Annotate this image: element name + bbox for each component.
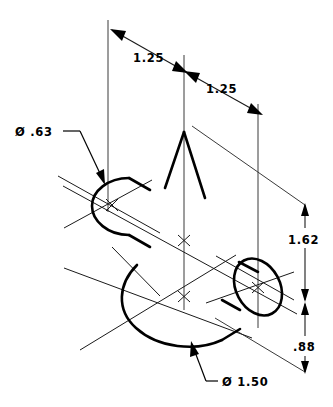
small-cylinder-top-edge-left: [129, 178, 150, 190]
center-line-large-end-axis-b: [80, 255, 236, 350]
small-cylinder-bottom-edge-right: [222, 300, 240, 310]
large-cylinder-bottom-arc: [122, 265, 222, 347]
leader-diameter-0-63[interactable]: Ø .63: [15, 125, 105, 185]
isometric-drawing-canvas: 1.25 1.25 1.62 .88: [0, 0, 333, 407]
center-line-cylinder-axis: [63, 186, 297, 314]
arrowhead-1-50: [190, 341, 199, 357]
part-geometry: [92, 132, 292, 347]
arrowhead-1-62-top: [301, 203, 309, 216]
leader-diameter-1-50[interactable]: Ø 1.50: [190, 341, 268, 389]
dimension-0-88[interactable]: .88: [293, 302, 315, 374]
arrowhead-0-63: [96, 169, 105, 185]
dimension-label-1-62: 1.62: [288, 233, 319, 247]
arrowhead-1-25-left-end: [172, 61, 188, 73]
center-lines: [58, 176, 297, 350]
dimension-label-1-25-right: 1.25: [206, 82, 237, 96]
dimension-label-1-25-left: 1.25: [133, 51, 164, 65]
intersection-vee-left-leg: [165, 132, 184, 188]
small-cylinder-bottom-edge-left: [129, 235, 150, 247]
arrowhead-1-25-left-start: [110, 29, 126, 41]
technical-drawing-viewport: 1.25 1.25 1.62 .88: [0, 0, 333, 407]
arrowhead-1-62-bottom: [301, 289, 309, 302]
diameter-label-1-50: Ø 1.50: [222, 375, 268, 389]
dimension-1-62[interactable]: 1.62: [288, 203, 319, 302]
dimension-label-0-88: .88: [293, 340, 315, 354]
arrowhead-1-25-right-end: [247, 103, 263, 115]
arrowhead-0-88-top: [301, 302, 309, 315]
dimension-1-25-right[interactable]: 1.25: [184, 71, 263, 115]
extension-lines: [108, 20, 305, 372]
diameter-label-0-63: Ø .63: [15, 125, 53, 139]
intersection-vee-right-leg: [184, 132, 205, 198]
extension-line-iso-lower: [215, 318, 305, 372]
dimension-1-25-left[interactable]: 1.25: [110, 29, 188, 73]
arrowhead-1-25-right-start: [184, 71, 200, 83]
arrowhead-0-88-bottom: [301, 361, 309, 374]
extension-line-iso-upper: [192, 126, 305, 205]
